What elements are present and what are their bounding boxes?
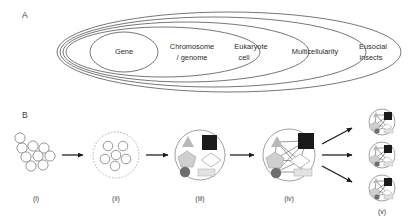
replicate-3 <box>369 175 395 201</box>
shape-rectangle <box>294 169 312 176</box>
shape-pentagon <box>266 152 284 168</box>
panel-a-nested-ellipses: Gene Chromosome / genome Eukaryote cell … <box>0 0 411 104</box>
ellipse-label-multicellularity: Multicellularity <box>292 47 339 56</box>
shape-pentagon <box>178 151 196 167</box>
stage-iii-differentiated <box>175 130 225 180</box>
stage-label-iii: (iii) <box>195 195 204 203</box>
stage-label-ii: (ii) <box>112 195 120 203</box>
stage-v-replicates <box>369 109 395 201</box>
stage-i-loose-cluster <box>15 133 55 171</box>
shape-rectangle <box>198 169 215 176</box>
shape-square <box>202 135 217 150</box>
shape-triangle <box>182 136 194 147</box>
shape-triangle <box>271 136 283 147</box>
stage-label-iv: (iv) <box>284 195 294 203</box>
ellipse-label-chromosome-line1: Chromosome <box>170 42 214 51</box>
shape-diamond <box>290 154 310 168</box>
replicate-2 <box>369 142 395 168</box>
figure-root: A Gene Chromosome / genome Eukaryote cel… <box>0 0 411 221</box>
ellipse-label-eukaryote-line2: cell <box>238 53 249 62</box>
arrow-iv-to-v-1 <box>322 128 352 144</box>
evolutionary-transition-diagram: (i) (ii) <box>0 104 411 221</box>
stage-label-i: (i) <box>33 195 39 203</box>
ellipse-label-gene: Gene <box>115 47 133 56</box>
ellipse-label-eusocial-line2: insects <box>359 53 382 62</box>
nested-ellipses-diagram: Gene Chromosome / genome Eukaryote cell … <box>0 0 411 104</box>
shape-circle <box>271 168 281 178</box>
shape-circle <box>180 167 190 177</box>
ellipse-label-eusocial-line1: Eusocial <box>359 42 387 51</box>
stage-iv-integrated-network <box>263 129 315 181</box>
panel-b-process-flow: (i) (ii) <box>0 104 411 221</box>
stage-label-v: (v) <box>378 208 386 216</box>
stage-ii-bounded-group <box>93 132 139 178</box>
shape-diamond <box>201 153 221 167</box>
ellipse-label-chromosome-line2: / genome <box>177 53 208 62</box>
replicate-1 <box>369 109 395 135</box>
ellipse-level-2 <box>66 27 260 77</box>
shape-square <box>298 133 314 149</box>
arrow-iv-to-v-3 <box>322 166 352 182</box>
ellipse-label-eukaryote-line1: Eukaryote <box>234 42 267 51</box>
